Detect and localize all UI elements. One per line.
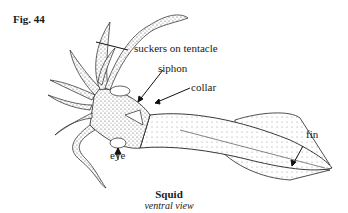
figure-title: Squid — [0, 188, 343, 200]
squid-illustration — [0, 0, 348, 213]
label-suckers-on-tentacle: suckers on tentacle — [134, 42, 218, 54]
figure-subtitle: ventral view — [0, 200, 343, 211]
label-siphon: siphon — [158, 62, 187, 74]
label-collar: collar — [191, 81, 216, 93]
label-eye: eye — [110, 149, 125, 161]
label-fin: fin — [306, 128, 318, 140]
